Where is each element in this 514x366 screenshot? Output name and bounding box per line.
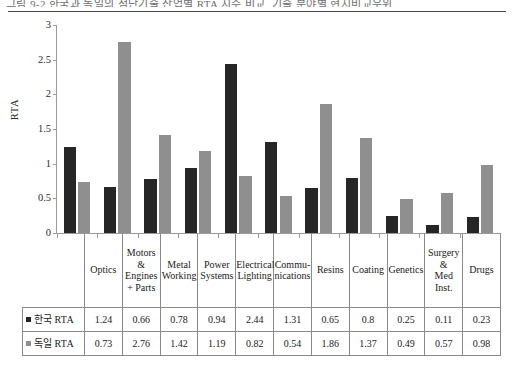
cell-series-0-0: 1.24 (85, 308, 123, 332)
cell-series-0-4: 2.44 (236, 308, 274, 332)
bar-group (57, 25, 97, 233)
bar-series-1-1 (118, 42, 130, 233)
bar-series-0-1 (104, 187, 116, 233)
column-header-line: Genetics (388, 264, 425, 276)
bar-series-0-3 (185, 168, 197, 233)
y-tick-label: 1 (46, 158, 51, 170)
bar-group (460, 25, 500, 233)
column-header-10: Drugs (463, 233, 501, 308)
table-row: 한국 RTA 1.240.660.780.942.441.310.650.80.… (23, 308, 501, 332)
y-tick-label: 2.5 (38, 54, 51, 66)
cell-series-1-1: 2.76 (122, 332, 160, 356)
legend-series-1-suffix: RTA (55, 338, 75, 349)
table-header-row: OpticsMotors&Engines+ PartsMetalWorkingP… (23, 233, 501, 308)
data-table: OpticsMotors&Engines+ PartsMetalWorkingP… (22, 233, 501, 356)
legend-label-series-1: 독일 RTA (23, 332, 85, 356)
plot-area: RTA 00.511.522.53 (0, 18, 514, 236)
y-tick-label: 2 (46, 88, 51, 100)
bar-series-0-6 (305, 188, 317, 233)
bar-series-1-4 (239, 176, 251, 233)
bar-series-0-4 (225, 64, 237, 233)
table-row: 독일 RTA 0.732.761.421.190.820.541.861.370… (23, 332, 501, 356)
cell-series-1-8: 0.49 (387, 332, 425, 356)
column-header-line: Coating (350, 264, 387, 276)
column-header-7: Coating (349, 233, 387, 308)
y-tick-label: 3 (46, 19, 51, 31)
cell-series-1-10: 0.98 (463, 332, 501, 356)
cell-series-0-1: 0.66 (122, 308, 160, 332)
bar-series-1-6 (320, 104, 332, 233)
column-header-line: Commu- (274, 259, 311, 271)
legend-swatch-icon-series-0 (26, 317, 31, 322)
legend-series-0-suffix: RTA (55, 314, 75, 325)
y-tick-label: 1.5 (38, 123, 51, 135)
cell-series-0-6: 0.65 (311, 308, 349, 332)
y-axis-ticks: 00.511.522.53 (0, 18, 57, 234)
bar-series-0-0 (64, 147, 76, 233)
y-tick-label: 0.5 (38, 192, 51, 204)
cell-series-0-7: 0.8 (349, 308, 387, 332)
bar-group (299, 25, 339, 233)
cell-series-0-9: 0.11 (425, 308, 463, 332)
bar-series-0-2 (144, 179, 156, 233)
bar-series-1-0 (78, 182, 90, 233)
column-header-line: Electrical (236, 259, 273, 271)
cell-series-1-0: 0.73 (85, 332, 123, 356)
cell-series-1-7: 1.37 (349, 332, 387, 356)
bar-series-1-3 (199, 151, 211, 234)
cell-series-0-2: 0.78 (160, 308, 198, 332)
column-header-3: PowerSystems (198, 233, 236, 308)
table-corner-cell (23, 233, 85, 308)
cell-series-1-2: 1.42 (160, 332, 198, 356)
column-header-2: MetalWorking (160, 233, 198, 308)
column-header-5: Commu-nications (274, 233, 312, 308)
legend-series-1-name: 독일 (34, 338, 52, 349)
bar-group (178, 25, 218, 233)
column-header-8: Genetics (387, 233, 425, 308)
bar-series-1-5 (280, 196, 292, 233)
column-header-4: ElectricalLighting (236, 233, 274, 308)
column-header-line: + Parts (123, 282, 160, 294)
bars-container (57, 25, 500, 233)
legend-series-0-name: 한국 (34, 314, 52, 325)
column-header-line: Resins (312, 264, 349, 276)
column-header-line: Lighting (236, 270, 273, 282)
bar-group (138, 25, 178, 233)
column-header-9: Surgery &Med Inst. (425, 233, 463, 308)
column-header-line: Power (198, 259, 235, 271)
column-header-line: Med Inst. (425, 270, 462, 293)
bar-series-1-10 (481, 165, 493, 233)
column-header-line: Surgery & (425, 247, 462, 270)
bar-group (97, 25, 137, 233)
bar-series-0-7 (346, 178, 358, 233)
column-header-line: Metal (161, 259, 198, 271)
legend-label-series-0: 한국 RTA (23, 308, 85, 332)
bar-series-1-9 (441, 193, 453, 233)
bar-series-1-8 (400, 199, 412, 233)
bar-series-1-2 (159, 135, 171, 233)
bar-series-0-8 (386, 216, 398, 233)
cell-series-1-6: 1.86 (311, 332, 349, 356)
column-header-line: Motors (123, 247, 160, 259)
column-header-line: nications (274, 270, 311, 282)
column-header-line: Systems (198, 270, 235, 282)
bar-group (218, 25, 258, 233)
bar-series-0-9 (426, 225, 438, 233)
cell-series-0-10: 0.23 (463, 308, 501, 332)
cell-series-1-9: 0.57 (425, 332, 463, 356)
cell-series-0-3: 0.94 (198, 308, 236, 332)
bar-series-1-7 (360, 138, 372, 233)
bar-group (258, 25, 298, 233)
bar-group (419, 25, 459, 233)
cell-series-1-5: 0.54 (274, 332, 312, 356)
cell-series-1-3: 1.19 (198, 332, 236, 356)
column-header-0: Optics (85, 233, 123, 308)
legend-swatch-icon-series-1 (26, 341, 31, 346)
column-header-line: Working (161, 270, 198, 282)
figure-caption: 그림 9-2 한국과 독일의 첨단기술 산업별 RTA 지수 비교, 기술 분야… (6, 0, 506, 7)
bar-group (339, 25, 379, 233)
column-header-line: & (123, 259, 160, 271)
column-header-line: Drugs (463, 264, 500, 276)
column-header-line: Optics (85, 264, 122, 276)
figure-container: 그림 9-2 한국과 독일의 첨단기술 산업별 RTA 지수 비교, 기술 분야… (0, 0, 514, 366)
